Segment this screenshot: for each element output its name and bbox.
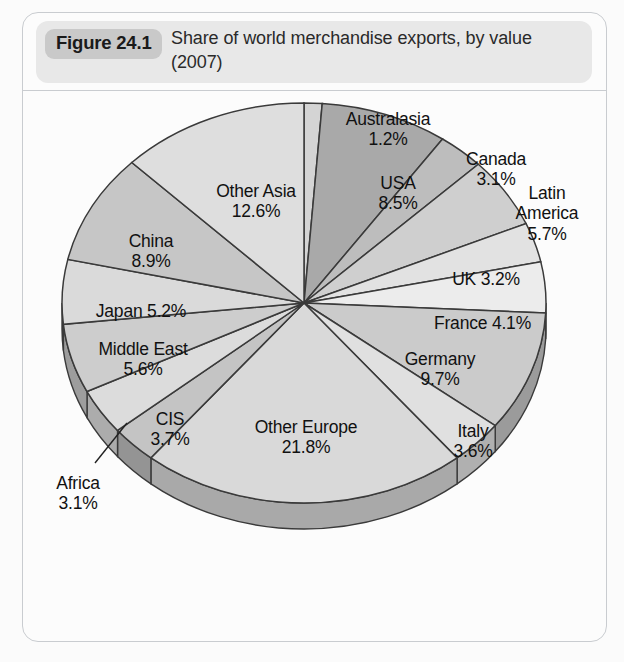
pie-chart-area: Australasia 1.2%USA 8.5%Canada 3.1%Latin… <box>23 91 606 640</box>
slice-label-france: France 4.1% <box>415 313 550 333</box>
slice-label-japan: Japan 5.2% <box>61 301 221 321</box>
slice-label-australasia: Australasia 1.2% <box>313 109 463 150</box>
slice-label-middle-east: Middle East 5.6% <box>61 339 225 380</box>
figure-header: Figure 24.1 Share of world merchandise e… <box>23 13 606 91</box>
figure-box: Figure 24.1 Share of world merchandise e… <box>22 12 607 642</box>
figure-caption: Share of world merchandise exports, by v… <box>171 27 581 75</box>
slice-label-africa: Africa 3.1% <box>31 473 125 514</box>
slice-label-latin-america: Latin America 5.7% <box>493 183 601 244</box>
slice-label-usa: USA 8.5% <box>353 173 443 214</box>
slice-label-cis: CIS 3.7% <box>133 409 207 450</box>
slice-label-italy: Italy 3.6% <box>433 421 513 462</box>
slice-label-other-asia: Other Asia 12.6% <box>175 181 337 222</box>
slice-label-germany: Germany 9.7% <box>375 349 505 390</box>
slice-label-china: China 8.9% <box>95 231 207 272</box>
slice-label-other-europe: Other Europe 21.8% <box>221 417 391 458</box>
figure-number-badge: Figure 24.1 <box>45 29 162 59</box>
slice-label-uk: UK 3.2% <box>431 269 541 289</box>
